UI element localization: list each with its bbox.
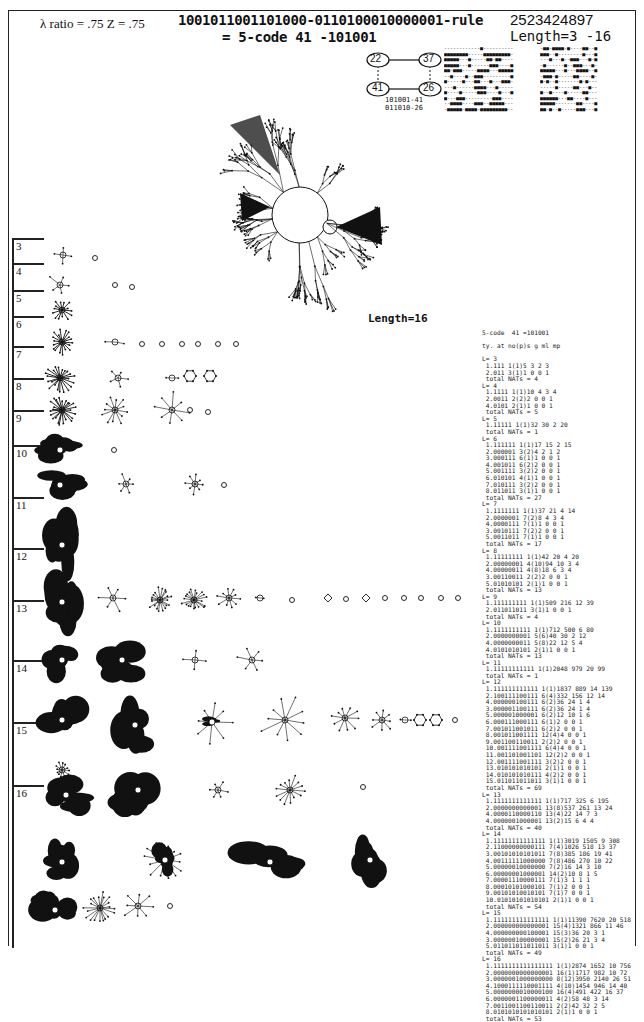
stats-table: 5-code 41 =101001 ty. at no(p)s g ml mp … <box>482 330 631 1022</box>
code-line: = 5-code 41 -101001 <box>222 29 376 45</box>
length-range: Length=3 -16 <box>510 28 611 44</box>
rule-number: 2523424897 <box>510 11 593 28</box>
lambda-ratio-label: λ ratio = .75 Z = .75 <box>40 16 145 32</box>
node-37: 37 <box>423 53 434 64</box>
ca-pattern-right: -■■-■■■■-■----■■--■ ■■■--■--------■---■ … <box>540 46 630 112</box>
ca-pattern-left: ------------■---------- ■■■■■■■■-----■■■… <box>444 46 534 112</box>
node-22: 22 <box>370 53 381 64</box>
basin-glyphs <box>0 230 470 950</box>
rule-string: 1001011001101000-0110100010000001-rule <box>178 12 483 28</box>
